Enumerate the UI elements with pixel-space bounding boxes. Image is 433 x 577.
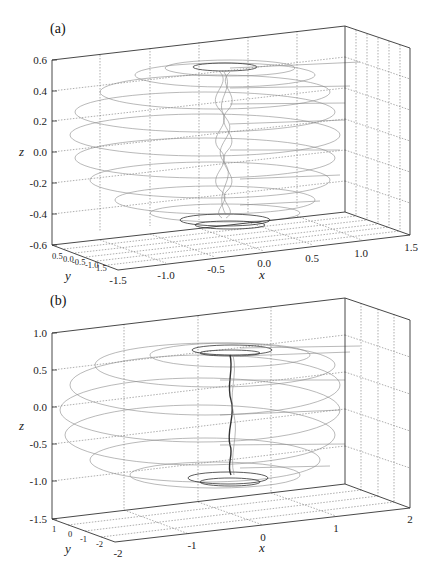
z-tick-label: -0.6 [30,239,48,251]
panel-a: (a) [18,21,418,286]
z-tick-label: 0.5 [33,364,47,376]
panel-a-gridlines [52,30,410,265]
y-tick-label: 1 [52,524,56,534]
y-tick-label: -1 [80,534,87,544]
z-tick-label: -1.5 [30,513,48,525]
z-tick-label: 0.6 [33,54,47,66]
z-tick-label: 0.2 [33,115,47,127]
z-tick-label: -1.0 [30,475,48,487]
y-axis-title: y [63,268,71,283]
panel-a-trajectory [70,60,360,229]
x-tick-label: -1.5 [109,274,127,286]
z-tick-label: 0.4 [33,85,47,97]
x-tick-label: 0.5 [305,252,319,264]
panel-a-x-axis: -1.5 -1.0 -0.5 0.0 0.5 1.0 1.5 x [109,241,418,286]
z-tick-label: 0.0 [33,401,47,413]
z-axis-title: z [18,144,24,159]
x-axis-title: x [258,267,265,282]
panel-b: (b) [18,293,413,559]
z-tick-label: 0.0 [33,146,47,158]
panel-a-label: (a) [50,21,66,37]
z-axis-title: z [18,418,24,433]
x-tick-label: 1.0 [354,247,368,259]
y-tick-label: 1.5 [96,263,107,273]
x-tick-label: -2 [113,547,122,559]
panel-b-trajectory [60,343,360,488]
x-tick-label: 1.5 [404,241,418,253]
y-tick-label: 0 [68,529,72,539]
x-tick-label: -0.5 [207,263,225,275]
z-tick-label: -0.2 [30,177,47,189]
x-tick-label: 1 [333,522,339,534]
panel-b-label: (b) [50,293,67,309]
panel-b-z-axis: 1.0 0.5 0.0 -0.5 -1.0 -1.5 z [18,327,57,525]
x-tick-label: -1 [187,539,196,551]
y-tick-label: -2 [96,539,103,549]
figure: (a) [0,0,433,577]
x-tick-label: 2 [407,513,413,525]
y-tick-label: -0.5 [72,257,85,267]
z-tick-label: 1.0 [33,327,47,339]
y-tick-label: 0.5 [52,251,63,261]
panel-b-x-axis: -2 -1 0 1 2 x [113,513,412,559]
panel-a-z-axis: 0.6 0.4 0.2 0.0 -0.2 -0.4 -0.6 z [18,54,57,251]
x-axis-title: x [258,540,265,555]
z-tick-label: -0.4 [30,208,48,220]
x-tick-label: -1.0 [157,269,175,281]
z-tick-label: -0.5 [30,438,48,450]
y-axis-title: y [63,541,71,556]
